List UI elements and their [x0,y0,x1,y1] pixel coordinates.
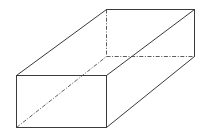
visible-edge-front-bottom-right-to-back-bottom-right [107,57,195,128]
visible-edges [17,10,195,128]
prism-diagram [0,0,206,140]
visible-edge-front-top-left-to-back-top-left [17,10,107,76]
visible-edge-front-top-right-to-back-top-right [107,10,195,76]
hidden-edges [17,10,195,128]
hidden-edge-front-bottom-left-to-back-bottom-left [17,57,107,128]
